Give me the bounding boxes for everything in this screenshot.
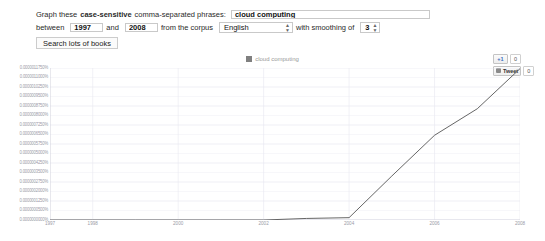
phrases-input[interactable] [231,10,430,19]
y-axis-tick: 0.0000000500% [19,208,48,213]
x-axis-tick: 2000 [173,221,183,226]
y-axis-tick: 0.0000005000% [19,151,48,156]
y-axis-tick: 0.0000001250% [19,198,48,203]
corpus-select[interactable]: English ▲▼ [219,22,293,33]
parameters-row: between and from the corpus English ▲▼ w… [36,21,430,34]
y-axis-tick: 0.0000008750% [19,104,48,109]
x-axis-tick: 2008 [515,221,525,226]
y-axis-tick-labels: 0.0000011750%0.0000011000%0.0000010250%0… [2,66,48,222]
end-year-input[interactable] [125,23,158,32]
and-label: and [106,23,119,32]
case-sensitive-label: case-sensitive [80,10,131,19]
y-axis-tick: 0.0000004250% [19,161,48,166]
y-axis-tick: 0.0000003500% [19,170,48,175]
chevron-updown-icon: ▲▼ [285,23,290,33]
ngram-query-form: Graph these case-sensitive comma-separat… [36,8,430,49]
y-axis-tick: 0.0000011750% [20,66,48,71]
smoothing-selected-value: 3 [365,23,369,32]
chart-legend: cloud computing [0,56,545,62]
x-axis-tick-labels: 1997199820002002200420062008 [50,221,520,231]
plot-svg [50,68,520,220]
y-axis-tick: 0.0000006500% [19,132,48,137]
corpus-selected-value: English [224,23,249,32]
y-axis-tick: 0.0000005750% [19,142,48,147]
y-axis-tick: 0.0000002750% [19,179,48,184]
y-axis-tick: 0.0000009500% [19,94,48,99]
legend-swatch-cloud-computing [246,56,252,62]
smoothing-label: with smoothing of [296,23,354,32]
between-label: between [36,23,64,32]
y-axis-tick: 0.0000007250% [19,123,48,128]
x-axis-tick: 2006 [429,221,439,226]
start-year-input[interactable] [70,23,103,32]
smoothing-select[interactable]: 3 ▲▼ [360,22,380,33]
y-axis-tick: 0.0000010250% [19,85,48,90]
corpus-label: from the corpus [161,23,213,32]
search-button[interactable]: Search lots of books [36,37,118,49]
x-axis-tick: 2002 [259,221,269,226]
x-axis-tick: 1998 [88,221,98,226]
phrases-row: Graph these case-sensitive comma-separat… [36,8,430,21]
y-axis-tick: 0.0000008000% [19,113,48,118]
y-axis-tick: 0.0000011000% [20,75,48,80]
x-axis-tick: 2004 [344,221,354,226]
prompt-suffix-label: comma-separated phrases: [135,10,226,19]
plot-region[interactable] [50,68,520,220]
y-axis-tick: 0.0000000000% [19,217,48,222]
chevron-updown-icon: ▲▼ [373,23,378,33]
x-axis-tick: 1997 [45,221,55,226]
prompt-prefix-label: Graph these [36,10,77,19]
ngram-chart: 0.0000011750%0.0000011000%0.0000010250%0… [0,66,545,231]
legend-label-cloud-computing: cloud computing [255,56,299,62]
y-axis-tick: 0.0000002000% [19,189,48,194]
